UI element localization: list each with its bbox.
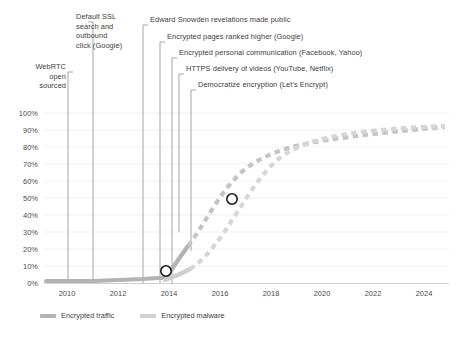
legend-item-encrypted-traffic[interactable]: Encrypted traffic (40, 311, 114, 320)
annotation-snowden: Edward Snowden revelations made public (150, 15, 450, 25)
annotation-personal-comm: Encrypted personal communication (Facebo… (179, 48, 461, 58)
y-tick-10: 10% (4, 262, 38, 271)
legend-swatch-encrypted-malware (140, 314, 156, 318)
x-tick-2018: 2018 (251, 289, 291, 298)
y-tick-50: 50% (4, 194, 38, 203)
x-tick-2024: 2024 (404, 289, 444, 298)
annotation-https-video: HTTPS delivery of videos (YouTube, Netfl… (186, 64, 461, 74)
marker-point-2 (227, 194, 237, 204)
legend-label-encrypted-malware: Encrypted malware (161, 311, 224, 320)
y-tick-30: 30% (4, 228, 38, 237)
y-tick-0: 0% (4, 279, 38, 288)
legend-item-encrypted-malware[interactable]: Encrypted malware (140, 311, 224, 320)
x-tick-2016: 2016 (200, 289, 240, 298)
annotation-lets-encrypt: Democratize encryption (Let's Encrypt) (198, 80, 461, 90)
y-tick-20: 20% (4, 245, 38, 254)
annotation-default-ssl: Default SSL search and outbound click (G… (76, 12, 138, 50)
y-tick-60: 60% (4, 177, 38, 186)
annotation-ranked-higher: Encrypted pages ranked higher (Google) (167, 32, 461, 42)
x-tick-2022: 2022 (353, 289, 393, 298)
y-tick-100: 100% (4, 109, 38, 118)
legend-swatch-encrypted-traffic (40, 314, 56, 318)
marker-point-1 (161, 266, 171, 276)
annotation-webrtc: WebRTC open sourced (10, 62, 66, 91)
y-tick-40: 40% (4, 211, 38, 220)
x-tick-2012: 2012 (98, 289, 138, 298)
x-tick-2014: 2014 (149, 289, 189, 298)
x-tick-2010: 2010 (47, 289, 87, 298)
chart-legend: Encrypted traffic Encrypted malware (40, 311, 243, 320)
legend-label-encrypted-traffic: Encrypted traffic (61, 311, 114, 320)
x-tick-2020: 2020 (302, 289, 342, 298)
y-tick-90: 90% (4, 126, 38, 135)
y-tick-80: 80% (4, 143, 38, 152)
y-tick-70: 70% (4, 160, 38, 169)
